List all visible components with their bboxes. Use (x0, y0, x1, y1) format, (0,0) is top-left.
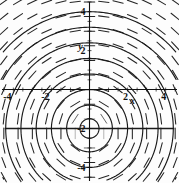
slope-segment (16, 99, 19, 109)
slope-segment (113, 72, 122, 77)
slope-segment (160, 113, 161, 124)
slope-segment (146, 113, 148, 124)
slope-segment (100, 145, 108, 151)
slope-segment (42, 29, 52, 33)
slope-segment (0, 0, 8, 5)
x-tick-label: -4 (3, 91, 11, 102)
slope-segment (128, 174, 136, 181)
slope-segment (30, 158, 35, 167)
slope-segment (171, 28, 179, 35)
slope-segment (14, 14, 23, 20)
slope-segment (1, 56, 7, 64)
slope-segment (70, 176, 80, 179)
slope-segment (43, 158, 49, 166)
slope-segment (43, 72, 51, 79)
slope-segment (128, 29, 138, 33)
slope-segment (130, 143, 134, 153)
slope-segment (42, 15, 52, 19)
slope-segment (28, 0, 38, 4)
slope-segment (143, 173, 150, 181)
slope-segment (58, 100, 65, 108)
slope-segment (157, 42, 165, 49)
slope-segment (129, 158, 135, 166)
slope-segment (14, 0, 23, 5)
slope-segment (14, 28, 22, 34)
slope-segment (174, 143, 176, 153)
slope-segment (114, 174, 123, 180)
slope-segment (142, 14, 151, 19)
slope-segment (143, 71, 150, 79)
slope-segment (0, 13, 8, 20)
slope-segment (113, 1, 123, 3)
slope-segment (56, 58, 66, 62)
slope-segment (2, 158, 6, 168)
y-tick-label: -4 (77, 162, 85, 173)
slope-segment (1, 172, 6, 181)
slope-segment (116, 114, 119, 124)
slope-segment (29, 71, 36, 79)
slope-segment (99, 1, 109, 2)
slope-segment (3, 143, 5, 153)
slope-segment (113, 58, 123, 62)
y-axis-name: y (77, 41, 83, 52)
slope-segment (173, 158, 177, 168)
x-axis-name: x (129, 95, 135, 106)
slope-segment (42, 43, 51, 48)
slope-segment (56, 174, 65, 180)
slope-segment (127, 0, 137, 4)
slope-segment (173, 172, 178, 181)
slope-segment (70, 16, 80, 17)
slope-segment (145, 99, 149, 109)
slope-segment (17, 143, 20, 153)
slope-segment (175, 113, 176, 124)
slope-segment (128, 57, 137, 63)
slope-segment (0, 28, 8, 35)
slope-segment (156, 0, 165, 5)
slope-segment (99, 176, 109, 179)
slope-segment (131, 114, 133, 124)
slope-segment (42, 0, 52, 4)
slope-segment (59, 114, 62, 124)
slope-segment (128, 72, 136, 79)
slope-segment (15, 71, 21, 80)
slope-segment (171, 13, 179, 20)
slope-segment (172, 56, 178, 64)
slope-segment (99, 30, 109, 32)
slope-segment (45, 143, 49, 153)
slope-segment (14, 42, 22, 49)
slope-segment (70, 30, 80, 32)
slope-segment (142, 0, 152, 4)
x-tick-label: 2 (123, 91, 128, 102)
slope-segment (30, 99, 34, 109)
y-tick-label: 4 (81, 6, 86, 17)
slope-segment (32, 113, 34, 124)
slope-segment (144, 158, 149, 167)
slope-segment (157, 28, 165, 34)
slope-segment (72, 114, 78, 123)
coordinate-axes (2, 2, 177, 181)
slope-segment (158, 71, 164, 80)
slope-segment (71, 101, 80, 107)
y-tick-label: -2 (77, 123, 85, 134)
slope-segment (56, 72, 65, 77)
slope-segment (174, 99, 177, 109)
x-tick-label: -2 (41, 91, 49, 102)
slope-segment (145, 143, 148, 153)
slope-segment (127, 15, 137, 19)
plot-canvas: -4-22442-2-4yx (0, 0, 179, 183)
slope-segment (46, 114, 48, 124)
slope-segment (171, 0, 179, 5)
x-tick-label: 4 (161, 91, 166, 102)
slope-segment (43, 174, 51, 181)
slope-segment (31, 143, 34, 153)
slope-segment (101, 114, 107, 123)
slope-segment (70, 1, 80, 2)
slope-segment (159, 158, 163, 168)
slope-segment (114, 159, 122, 166)
slope-segment (160, 143, 163, 153)
slope-segment (17, 113, 18, 124)
slope-segment (157, 14, 166, 20)
slope-field-figure: -4-22442-2-4yx (0, 0, 179, 183)
slope-segment (99, 16, 109, 17)
slope-segment (99, 101, 108, 107)
